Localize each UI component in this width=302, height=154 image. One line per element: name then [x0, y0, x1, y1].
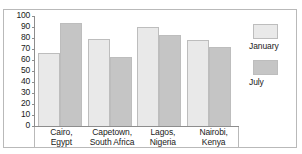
- category-label-box: Cairo,EgyptCapetown,South AfricaLagos,Ni…: [34, 127, 239, 148]
- bar-january-lagos[interactable]: [137, 27, 159, 126]
- category-label: Capetown,South Africa: [87, 128, 138, 147]
- category-label-line2: Nigeria: [138, 138, 189, 148]
- y-axis-tick-label: 70: [21, 43, 30, 53]
- category-label-line1: Cairo,: [50, 127, 72, 137]
- chart-figure: 0102030405060708090100 Cairo,EgyptCapeto…: [3, 9, 297, 148]
- category-label: Lagos,Nigeria: [138, 128, 189, 147]
- category-label-line1: Capetown,: [92, 127, 132, 137]
- bar-july-capetown[interactable]: [110, 57, 132, 126]
- bar-july-lagos[interactable]: [159, 35, 181, 126]
- y-axis-tick-label: 0: [25, 120, 30, 130]
- y-axis-tick-label: 10: [21, 109, 30, 119]
- legend-swatch-july: [253, 60, 278, 75]
- y-axis-tick-label: 100: [16, 10, 30, 20]
- bar-july-nairobi[interactable]: [209, 47, 231, 126]
- category-label: Nairobi,Kenya: [188, 128, 239, 147]
- bar-january-nairobi[interactable]: [187, 40, 209, 126]
- bar-group-container: [35, 16, 234, 126]
- y-axis-tick-label: 60: [21, 54, 30, 64]
- bar-group: [38, 16, 82, 126]
- bar-group: [187, 16, 231, 126]
- category-label: Cairo,Egypt: [36, 128, 87, 147]
- y-axis-tick-label: 40: [21, 76, 30, 86]
- bar-group: [137, 16, 181, 126]
- legend-swatch-january: [253, 24, 278, 39]
- y-axis-tick-label: 50: [21, 65, 30, 75]
- legend-item-july[interactable]: July: [249, 60, 297, 87]
- y-axis-tick-label: 80: [21, 32, 30, 42]
- legend-item-january[interactable]: January: [249, 24, 297, 51]
- y-axis-tick-label: 90: [21, 21, 30, 31]
- chart-legend: JanuaryJuly: [249, 24, 297, 96]
- category-label-line1: Lagos,: [150, 127, 175, 137]
- bar-group: [88, 16, 132, 126]
- bar-january-capetown[interactable]: [88, 39, 110, 126]
- legend-label: July: [249, 77, 297, 87]
- category-label-line1: Nairobi,: [199, 127, 228, 137]
- y-axis-tick-label: 20: [21, 98, 30, 108]
- category-label-line2: South Africa: [87, 138, 138, 148]
- bar-july-cairo[interactable]: [60, 23, 82, 126]
- y-axis-tick-label: 30: [21, 87, 30, 97]
- category-label-line2: Kenya: [188, 138, 239, 148]
- category-label-line2: Egypt: [36, 138, 87, 148]
- bar-january-cairo[interactable]: [38, 53, 60, 126]
- legend-label: January: [249, 41, 297, 51]
